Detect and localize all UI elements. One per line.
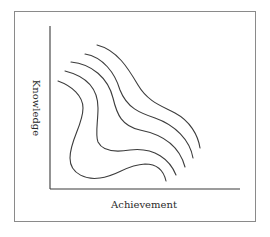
curve-group — [58, 45, 200, 181]
curve-3 — [71, 62, 185, 167]
contour-diagram: Achievement Knowledge — [0, 0, 270, 237]
x-axis-label: Achievement — [110, 199, 177, 210]
diagram-frame — [15, 12, 256, 222]
y-axis-label: Knowledge — [31, 80, 42, 136]
curve-4 — [85, 54, 193, 158]
curve-2 — [65, 71, 176, 175]
